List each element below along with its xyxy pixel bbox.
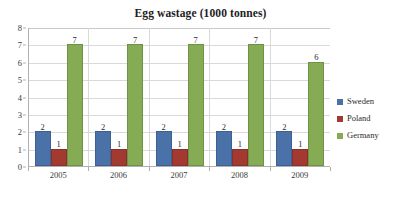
bar-group: 217 (29, 28, 89, 166)
bar-value-label: 2 (101, 123, 105, 132)
y-axis-tick-label: 4 (18, 93, 22, 102)
bar[interactable]: 2 (35, 131, 51, 166)
plot-area: 217217217217216 (28, 28, 330, 167)
x-axis-tick-label: 2005 (28, 170, 88, 180)
bar-slot: 1 (172, 28, 188, 166)
bar-group-inner: 217 (89, 28, 148, 166)
x-axis-tick (330, 167, 331, 171)
bar[interactable]: 2 (216, 131, 232, 166)
legend-swatch-icon (337, 116, 343, 122)
bar-value-label: 2 (222, 123, 226, 132)
x-axis: 20052006200720082009 (28, 170, 330, 180)
bar-value-label: 7 (254, 36, 258, 45)
bar-value-label: 1 (57, 140, 61, 149)
y-axis-tick (23, 80, 26, 81)
bar-slot: 2 (276, 28, 292, 166)
bar-value-label: 1 (177, 140, 181, 149)
y-axis-tick (23, 149, 26, 150)
y-axis: 012345678 (0, 28, 26, 167)
bar-value-label: 7 (133, 36, 137, 45)
bar-slot: 1 (292, 28, 308, 166)
bar-value-label: 7 (193, 36, 197, 45)
y-axis-tick-label: 7 (18, 41, 22, 50)
legend-swatch-icon (337, 133, 343, 139)
bar[interactable]: 7 (127, 44, 143, 166)
bar-slot: 2 (35, 28, 51, 166)
bar[interactable]: 7 (248, 44, 264, 166)
bar-value-label: 1 (238, 140, 242, 149)
bar-group: 217 (210, 28, 270, 166)
bar-chart: Egg wastage (1000 tonnes) 012345678 2172… (0, 0, 401, 218)
y-axis-tick-label: 2 (18, 128, 22, 137)
y-axis-tick (23, 132, 26, 133)
bar-group: 217 (150, 28, 210, 166)
bar[interactable]: 1 (292, 149, 308, 166)
x-axis-tick-label: 2006 (88, 170, 148, 180)
bar-value-label: 1 (117, 140, 121, 149)
y-axis-tick-label: 5 (18, 76, 22, 85)
legend-label: Germany (347, 131, 379, 140)
legend-label: Sweden (347, 97, 374, 106)
bar-value-label: 2 (41, 123, 45, 132)
bar-slot: 2 (95, 28, 111, 166)
bar-slot: 7 (127, 28, 143, 166)
bar-group-inner: 216 (271, 28, 330, 166)
bar-group-inner: 217 (150, 28, 209, 166)
bar-group-inner: 217 (29, 28, 88, 166)
bar[interactable]: 2 (95, 131, 111, 166)
legend-item-poland[interactable]: Poland (337, 110, 399, 127)
x-axis-tick-label: 2008 (209, 170, 269, 180)
legend-item-germany[interactable]: Germany (337, 127, 399, 144)
y-axis-tick (23, 45, 26, 46)
bar[interactable]: 7 (67, 44, 83, 166)
legend-swatch-icon (337, 99, 343, 105)
bar[interactable]: 1 (172, 149, 188, 166)
bar[interactable]: 1 (232, 149, 248, 166)
bar[interactable]: 6 (308, 62, 324, 166)
bar-value-label: 2 (161, 123, 165, 132)
legend-item-sweden[interactable]: Sweden (337, 93, 399, 110)
bar-slot: 7 (188, 28, 204, 166)
bar[interactable]: 2 (276, 131, 292, 166)
bar-slot: 2 (216, 28, 232, 166)
bar-group: 216 (271, 28, 330, 166)
bar[interactable]: 2 (156, 131, 172, 166)
bar-group: 217 (89, 28, 149, 166)
y-axis-tick (23, 97, 26, 98)
y-axis-tick (23, 114, 26, 115)
bar-value-label: 2 (282, 123, 286, 132)
bar-slot: 6 (308, 28, 324, 166)
bar[interactable]: 7 (188, 44, 204, 166)
y-axis-tick (23, 28, 26, 29)
y-axis-tick-label: 6 (18, 59, 22, 68)
bar-value-label: 6 (314, 53, 318, 62)
bar-slot: 1 (111, 28, 127, 166)
bar-groups: 217217217217216 (29, 28, 330, 166)
y-axis-tick-label: 3 (18, 111, 22, 120)
y-axis-tick-label: 0 (18, 163, 22, 172)
legend-label: Poland (347, 114, 371, 123)
y-axis-tick-label: 1 (18, 145, 22, 154)
y-axis-tick (23, 167, 26, 168)
bar-group-inner: 217 (210, 28, 269, 166)
bar[interactable]: 1 (51, 149, 67, 166)
bar-slot: 7 (67, 28, 83, 166)
y-axis-tick-label: 8 (18, 24, 22, 33)
chart-legend: SwedenPolandGermany (337, 93, 399, 144)
x-axis-tick-label: 2009 (270, 170, 330, 180)
y-axis-tick (23, 62, 26, 63)
chart-title: Egg wastage (1000 tonnes) (0, 7, 401, 19)
bar-slot: 1 (232, 28, 248, 166)
bar-value-label: 1 (298, 140, 302, 149)
bar[interactable]: 1 (111, 149, 127, 166)
bar-value-label: 7 (73, 36, 77, 45)
bar-slot: 1 (51, 28, 67, 166)
bar-slot: 2 (156, 28, 172, 166)
bar-slot: 7 (248, 28, 264, 166)
x-axis-tick-label: 2007 (149, 170, 209, 180)
